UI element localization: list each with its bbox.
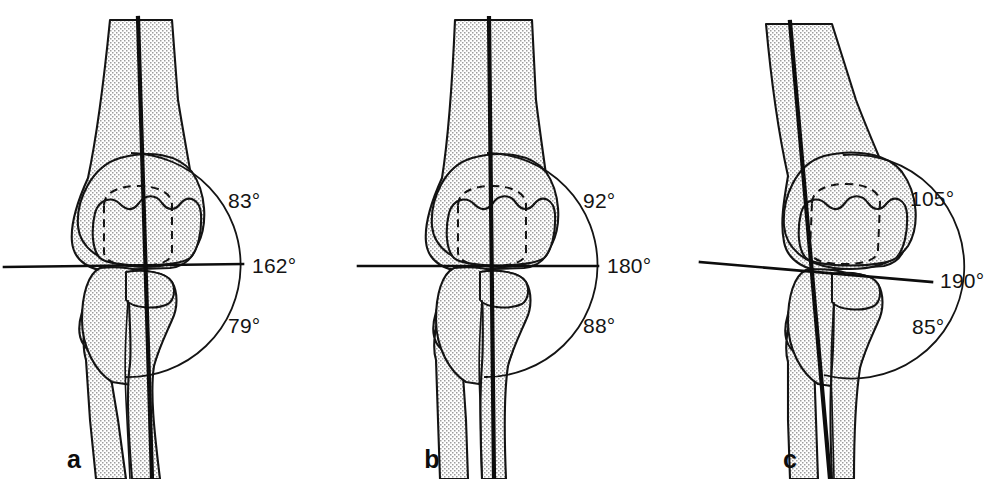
panel-a-upper-angle: 83° <box>228 189 260 212</box>
panel-b-letter: b <box>424 445 439 473</box>
panel-c-upper-angle: 105° <box>910 187 954 210</box>
panel-a-lower-angle: 79° <box>228 314 260 337</box>
panel-c-joint-line-angle: 190° <box>940 269 984 292</box>
radial-head <box>480 271 528 308</box>
trochlea-capitellum <box>799 196 907 265</box>
panel-c-letter: c <box>783 445 797 473</box>
panel-a-letter: a <box>67 445 82 473</box>
radial-head <box>126 271 174 308</box>
figure-canvas: 83° 162° 79° a 92° 180° 88° b <box>0 0 987 479</box>
radial-head <box>832 273 880 310</box>
panel-b-joint-line-angle: 180° <box>607 254 651 277</box>
panel-c-lower-angle: 85° <box>912 315 944 338</box>
panel-a-joint-line-angle: 162° <box>252 254 296 277</box>
trochlea-capitellum <box>447 196 555 265</box>
panel-b-lower-angle: 88° <box>583 314 615 337</box>
elbow-angle-figure: 83° 162° 79° a 92° 180° 88° b <box>0 0 987 479</box>
panel-b-upper-angle: 92° <box>583 189 615 212</box>
